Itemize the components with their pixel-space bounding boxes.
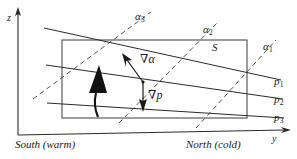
region-label-north: North (cold) (186, 139, 241, 150)
solenoidal-circulation-arrow (89, 65, 107, 117)
isostere-label-alpha2-symbol: α (203, 23, 209, 35)
isostere-label-alpha1-subscript: 1 (269, 45, 273, 54)
isostere-label-alpha2: α2 (203, 24, 213, 37)
grad-alpha-symbol: α (148, 52, 154, 66)
isobar-line-p1 (44, 28, 281, 80)
grad-alpha-label: ∇α (140, 53, 155, 65)
isostere-label-alpha3-subscript: 3 (141, 15, 145, 24)
isobar-label-p3-subscript: 3 (280, 116, 284, 125)
isobar-label-p2-subscript: 2 (280, 98, 284, 107)
isobar-label-p1-subscript: 1 (280, 80, 284, 89)
isostere-label-alpha3: α3 (135, 11, 145, 24)
z-axis-label: z (7, 13, 11, 23)
isobar-lines-group (44, 28, 284, 118)
isobar-label-p2-symbol: p (274, 93, 280, 105)
isobar-label-p2: p2 (274, 94, 284, 107)
circulation-arrowhead (89, 65, 107, 93)
isostere-label-alpha1-symbol: α (263, 40, 269, 52)
grad-p-label: ∇p (148, 89, 162, 101)
isobar-label-p1-symbol: p (274, 75, 280, 87)
circulation-arrow-curve (95, 93, 98, 117)
y-axis-line (18, 130, 285, 135)
isostere-label-alpha3-symbol: α (135, 10, 141, 22)
grad-p-symbol: p (156, 88, 162, 102)
isostere-lines-group (33, 12, 276, 128)
diagram-canvas (0, 0, 297, 159)
surface-label-s: S (212, 42, 218, 53)
region-label-south: South (warm) (15, 139, 75, 150)
isostere-label-alpha2-subscript: 2 (209, 28, 213, 37)
isobar-label-p3: p3 (274, 112, 284, 125)
baroclinic-schematic-figure: z y α3 α2 α1 S p1 p2 p3 ∇α ∇p South (war… (0, 0, 297, 159)
y-axis-label: y (272, 134, 276, 144)
isobar-label-p1: p1 (274, 76, 284, 89)
isobar-line-p3 (47, 103, 284, 118)
isobar-label-p3-symbol: p (274, 111, 280, 123)
isostere-label-alpha1: α1 (263, 41, 273, 54)
